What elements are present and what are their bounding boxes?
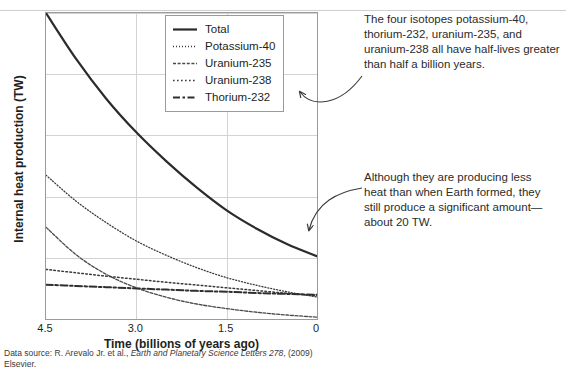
legend-label: Uranium-238 [205, 75, 271, 87]
source-prefix: Data source: R. Arevalo Jr. et al., [4, 348, 131, 358]
chart-area: Internal heat production (TW) 0204060801… [0, 0, 336, 345]
x-tick-label: 1.5 [206, 322, 246, 334]
legend-label: Total [205, 24, 229, 36]
legend-swatch-potassium-40 [172, 41, 198, 52]
legend-item: Total [172, 21, 275, 38]
series-line-potassium-40 [46, 175, 317, 297]
x-tick-label: 3.0 [115, 322, 155, 334]
series-line-uranium-238 [46, 269, 317, 295]
x-tick-label: 0 [296, 322, 336, 334]
source-italic: Earth and Planetary Science Letters 278 [131, 348, 284, 358]
legend-label: Uranium-235 [205, 58, 271, 70]
legend-item: Uranium-235 [172, 55, 275, 72]
x-tick-label: 4.5 [25, 322, 65, 334]
y-axis-label: Internal heat production (TW) [12, 54, 26, 264]
legend: TotalPotassium-40Uranium-235Uranium-238T… [165, 15, 284, 112]
legend-item: Uranium-238 [172, 72, 275, 89]
series-line-uranium-235 [46, 227, 317, 317]
legend-label: Thorium-232 [205, 92, 270, 104]
legend-label: Potassium-40 [205, 41, 275, 53]
legend-item: Potassium-40 [172, 38, 275, 55]
source-note: Data source: R. Arevalo Jr. et al., Eart… [4, 348, 344, 370]
legend-swatch-uranium-235 [172, 58, 198, 69]
legend-swatch-thorium-232 [172, 92, 198, 103]
figure-root: Internal heat production (TW) 0204060801… [0, 0, 566, 377]
legend-swatch-uranium-238 [172, 75, 198, 86]
legend-swatch-total [172, 24, 198, 35]
annotation-current-output: Although they are producing less heat th… [364, 170, 554, 230]
y-axis-label-holder: Internal heat production (TW) [0, 0, 22, 332]
legend-item: Thorium-232 [172, 89, 275, 106]
annotation-half-lives: The four isotopes potassium-40, thorium-… [364, 12, 560, 72]
